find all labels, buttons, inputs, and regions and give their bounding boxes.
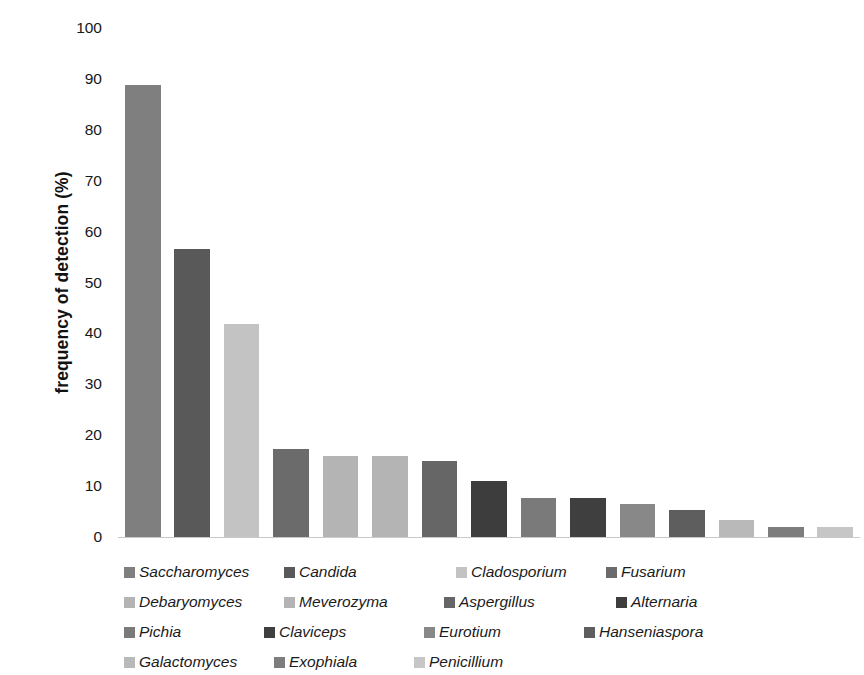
legend-swatch-icon (284, 567, 295, 578)
legend-label: Penicillium (429, 654, 503, 670)
legend-item[interactable]: Meverozyma (284, 587, 444, 617)
bar-slot (167, 28, 216, 537)
bar-slot (662, 28, 711, 537)
bar-slot (365, 28, 414, 537)
legend-item[interactable]: Penicillium (414, 647, 574, 675)
bar-slot (217, 28, 266, 537)
bar-claviceps[interactable] (570, 498, 606, 537)
x-axis-line (118, 537, 860, 538)
bar-slot (613, 28, 662, 537)
legend-label: Saccharomyces (139, 564, 249, 580)
legend-item[interactable]: Alternaria (616, 587, 766, 617)
legend-item[interactable]: Claviceps (264, 617, 424, 647)
y-tick-label: 60 (85, 223, 102, 241)
legend-label: Aspergillus (459, 594, 535, 610)
y-tick-label: 100 (76, 19, 102, 37)
legend-item[interactable]: Galactomyces (124, 647, 274, 675)
y-tick-label: 70 (85, 172, 102, 190)
y-tick-label: 20 (85, 426, 102, 444)
bar-saccharomyces[interactable] (125, 85, 161, 537)
bar-eurotium[interactable] (620, 504, 656, 537)
legend-item[interactable]: Fusarium (606, 557, 746, 587)
legend-item[interactable]: Exophiala (274, 647, 414, 675)
legend-label: Candida (299, 564, 357, 580)
bar-slot (266, 28, 315, 537)
legend: SaccharomycesCandidaCladosporiumFusarium… (124, 557, 864, 675)
legend-label: Eurotium (439, 624, 501, 640)
legend-item[interactable]: Saccharomyces (124, 557, 284, 587)
legend-swatch-icon (606, 567, 617, 578)
legend-swatch-icon (124, 567, 135, 578)
y-tick-label: 50 (85, 274, 102, 292)
bar-exophiala[interactable] (768, 527, 804, 537)
legend-swatch-icon (124, 627, 135, 638)
legend-item[interactable]: Cladosporium (456, 557, 606, 587)
legend-swatch-icon (616, 597, 627, 608)
bar-slot (563, 28, 612, 537)
legend-label: Pichia (139, 624, 181, 640)
y-axis-title: frequency of detection (%) (52, 133, 73, 433)
y-tick-label: 10 (85, 477, 102, 495)
y-tick-label: 90 (85, 70, 102, 88)
legend-label: Alternaria (631, 594, 697, 610)
y-tick-label: 80 (85, 121, 102, 139)
bar-meverozyma[interactable] (372, 456, 408, 537)
bar-penicillium[interactable] (817, 527, 853, 537)
bar-alternaria[interactable] (471, 481, 507, 537)
bar-fusarium[interactable] (273, 449, 309, 537)
bar-chart-figure: frequency of detection (%) 1009080706050… (0, 0, 864, 675)
bar-slot (761, 28, 810, 537)
legend-swatch-icon (414, 657, 425, 668)
bar-slot (712, 28, 761, 537)
bar-slot (415, 28, 464, 537)
bar-debaryomyces[interactable] (323, 456, 359, 537)
legend-label: Cladosporium (471, 564, 567, 580)
legend-item[interactable]: Debaryomyces (124, 587, 284, 617)
bar-series (118, 28, 860, 537)
bar-pichia[interactable] (521, 498, 557, 537)
legend-swatch-icon (284, 597, 295, 608)
bar-cladosporium[interactable] (224, 324, 260, 537)
legend-label: Debaryomyces (139, 594, 242, 610)
bar-slot (514, 28, 563, 537)
legend-label: Hanseniaspora (599, 624, 703, 640)
bar-candida[interactable] (174, 249, 210, 537)
y-tick-label: 30 (85, 375, 102, 393)
legend-swatch-icon (584, 627, 595, 638)
legend-item[interactable]: Aspergillus (444, 587, 616, 617)
legend-item[interactable]: Eurotium (424, 617, 584, 647)
y-tick-label: 0 (93, 528, 102, 546)
legend-swatch-icon (124, 597, 135, 608)
plot-area: 1009080706050403020100 (118, 28, 860, 537)
legend-label: Galactomyces (139, 654, 237, 670)
y-tick-label: 40 (85, 324, 102, 342)
bar-aspergillus[interactable] (422, 461, 458, 537)
legend-item[interactable]: Pichia (124, 617, 264, 647)
bar-slot (464, 28, 513, 537)
legend-swatch-icon (456, 567, 467, 578)
legend-label: Claviceps (279, 624, 346, 640)
legend-item[interactable]: Hanseniaspora (584, 617, 756, 647)
legend-label: Exophiala (289, 654, 357, 670)
bar-hanseniaspora[interactable] (669, 510, 705, 537)
legend-label: Meverozyma (299, 594, 388, 610)
bar-slot (316, 28, 365, 537)
legend-swatch-icon (274, 657, 285, 668)
legend-label: Fusarium (621, 564, 686, 580)
bar-galactomyces[interactable] (719, 520, 755, 537)
legend-swatch-icon (264, 627, 275, 638)
bar-slot (118, 28, 167, 537)
bar-slot (811, 28, 860, 537)
legend-item[interactable]: Candida (284, 557, 456, 587)
legend-swatch-icon (124, 657, 135, 668)
legend-swatch-icon (444, 597, 455, 608)
legend-swatch-icon (424, 627, 435, 638)
